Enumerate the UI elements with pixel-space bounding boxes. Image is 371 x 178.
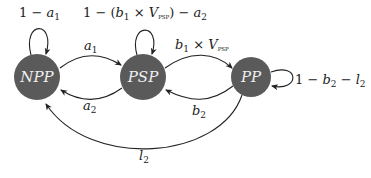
node-npp-label: NPP — [19, 68, 54, 86]
label-npp-self: 1 − a1 — [19, 5, 60, 22]
label-b1-vpsp: b1 × VPSP — [175, 37, 229, 54]
edge-pp-self — [271, 70, 293, 87]
edge-npp-self — [29, 29, 47, 55]
label-pp-self: 1 − b2 − l2 — [295, 72, 366, 89]
node-psp-label: PSP — [127, 68, 159, 86]
edge-pp-to-npp — [46, 95, 242, 149]
node-pp-label: PP — [240, 68, 262, 86]
edge-psp-to-pp — [165, 55, 232, 68]
edge-pp-to-psp — [166, 86, 233, 99]
edge-npp-to-psp — [60, 56, 121, 68]
node-psp: PSP — [120, 54, 166, 100]
label-psp-self: 1 − (b1 × VPSP) − a2 — [83, 5, 207, 22]
label-a1: a1 — [84, 38, 98, 55]
state-diagram: NPP PSP PP 1 − a1 a1 1 − (b1 × VPSP) − a… — [0, 0, 371, 178]
label-b2: b2 — [192, 103, 206, 120]
label-l2: l2 — [139, 148, 149, 165]
edge-psp-to-npp — [61, 88, 122, 100]
label-a2: a2 — [83, 98, 97, 115]
node-pp: PP — [231, 57, 271, 97]
edge-psp-self — [135, 30, 153, 55]
node-npp: NPP — [14, 54, 60, 100]
